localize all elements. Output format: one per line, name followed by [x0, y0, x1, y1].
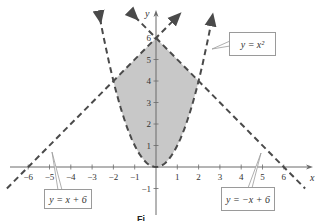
svg-text:−2: −2 [109, 172, 119, 182]
left-line-equation: y = x + 6 [49, 194, 86, 205]
parabola-callout-label: y = x² [229, 32, 276, 56]
svg-text:4: 4 [239, 172, 244, 182]
right-line-callout-pointer [248, 153, 261, 188]
parabola-callout-pointer [212, 41, 230, 49]
svg-text:2: 2 [147, 119, 152, 129]
svg-text:4: 4 [147, 76, 152, 86]
svg-text:1: 1 [175, 172, 180, 182]
svg-text:6: 6 [147, 33, 152, 43]
x-axis-label: x [309, 172, 315, 183]
svg-text:6: 6 [282, 172, 287, 182]
svg-text:−6: −6 [23, 172, 33, 182]
right-line-equation: y = −x + 6 [226, 194, 270, 205]
right-line-callout-label: y = −x + 6 [221, 187, 275, 211]
svg-text:−1: −1 [130, 172, 140, 182]
left-line-callout-label: y = x + 6 [44, 189, 92, 209]
svg-text:−3: −3 [87, 172, 97, 182]
svg-text:−1: −1 [141, 184, 151, 194]
svg-text:5: 5 [147, 55, 152, 65]
svg-text:3: 3 [147, 98, 152, 108]
svg-text:1: 1 [147, 141, 152, 151]
svg-text:5: 5 [260, 172, 265, 182]
parabola-equation: y = x² [241, 39, 265, 50]
left-line-callout-pointer [52, 152, 62, 190]
svg-text:3: 3 [218, 172, 223, 182]
y-axis-label: y [144, 8, 150, 19]
svg-text:−5: −5 [45, 172, 55, 182]
svg-text:−4: −4 [66, 172, 76, 182]
figure-caption-fragment: Fi [137, 214, 145, 221]
svg-text:2: 2 [196, 172, 201, 182]
